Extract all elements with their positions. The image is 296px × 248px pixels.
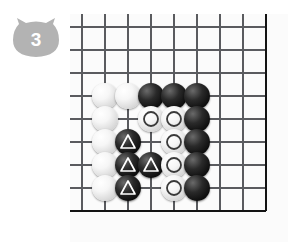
stone-black-triangle[interactable] [115,175,141,201]
stone-black[interactable] [184,175,210,201]
go-board[interactable] [70,14,288,242]
triangle-mark-icon [115,175,141,201]
problem-number-label: 3 [12,16,60,60]
problem-number-badge: 3 [12,16,60,60]
stone-layer [70,14,288,242]
